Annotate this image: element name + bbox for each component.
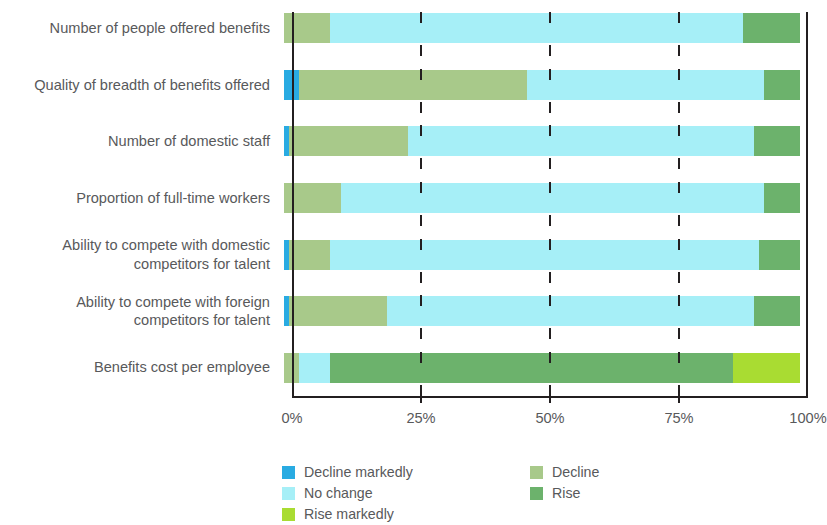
bar-segment-decline[interactable] [284, 13, 330, 43]
stacked-bar[interactable] [284, 240, 800, 270]
bar-track [284, 170, 800, 227]
category-label: Ability to compete with foreign competit… [0, 293, 284, 330]
category-label: Ability to compete with domestic competi… [0, 236, 284, 273]
bar-segment-decline[interactable] [289, 296, 387, 326]
bar-segment-no-change[interactable] [330, 13, 743, 43]
bar-segment-no-change[interactable] [408, 126, 754, 156]
bar-track [284, 226, 800, 283]
x-axis-tick-label: 100% [789, 410, 826, 426]
stacked-bar[interactable] [284, 126, 800, 156]
chart-row: Benefits cost per employee [0, 339, 826, 396]
bar-segment-rise[interactable] [330, 353, 732, 383]
chart-row: Number of domestic staff [0, 113, 826, 170]
category-label: Quality of breadth of benefits offered [0, 76, 284, 95]
bar-segment-decline[interactable] [289, 126, 408, 156]
bar-segment-no-change[interactable] [299, 353, 330, 383]
legend-label: Rise [552, 485, 580, 501]
category-label: Number of domestic staff [0, 132, 284, 151]
legend-label: No change [304, 485, 373, 501]
bar-segment-no-change[interactable] [330, 240, 758, 270]
x-axis-tick-label: 50% [535, 410, 564, 426]
bar-segment-no-change[interactable] [527, 70, 764, 100]
bar-segment-decline[interactable] [289, 240, 330, 270]
legend-swatch-rise [530, 487, 543, 500]
x-axis-line [292, 396, 808, 398]
stacked-bar[interactable] [284, 353, 800, 383]
legend-swatch-decline [530, 466, 543, 479]
legend-swatch-decline-markedly [282, 466, 295, 479]
x-axis-tick-label: 0% [281, 410, 302, 426]
bar-track [284, 339, 800, 396]
stacked-bar[interactable] [284, 13, 800, 43]
bar-segment-rise[interactable] [754, 296, 800, 326]
chart-row: Quality of breadth of benefits offered [0, 57, 826, 114]
bar-track [284, 113, 800, 170]
axis-right-edge [806, 12, 808, 396]
bar-segment-rise[interactable] [759, 240, 800, 270]
axis-left-edge [292, 12, 294, 396]
chart-row: Proportion of full-time workers [0, 170, 826, 227]
bar-rows: Number of people offered benefits Qualit… [0, 0, 826, 396]
chart-row: Ability to compete with foreign competit… [0, 283, 826, 340]
legend-item[interactable]: Decline [530, 462, 599, 482]
legend-item[interactable]: Rise [530, 483, 599, 503]
bar-segment-rise[interactable] [764, 70, 800, 100]
legend-item[interactable]: No change [282, 483, 413, 503]
x-axis-tick-label: 25% [406, 410, 435, 426]
chart-row: Number of people offered benefits [0, 0, 826, 57]
legend-item[interactable]: Rise markedly [282, 504, 413, 524]
bar-segment-no-change[interactable] [341, 183, 764, 213]
bar-track [284, 57, 800, 114]
legend-column-left: Decline markedly No change Rise markedly [282, 462, 413, 525]
legend-column-right: Decline Rise [530, 462, 599, 504]
category-label: Benefits cost per employee [0, 358, 284, 377]
bar-segment-rise[interactable] [743, 13, 800, 43]
bar-segment-no-change[interactable] [387, 296, 753, 326]
chart-row: Ability to compete with domestic competi… [0, 226, 826, 283]
bar-segment-rise[interactable] [754, 126, 800, 156]
stacked-bar[interactable] [284, 296, 800, 326]
legend-swatch-rise-markedly [282, 508, 295, 521]
legend-label: Decline [552, 464, 599, 480]
legend-label: Rise markedly [304, 506, 394, 522]
legend-label: Decline markedly [304, 464, 413, 480]
x-axis-tick-labels: 0%25%50%75%100% [0, 410, 826, 434]
stacked-bar[interactable] [284, 183, 800, 213]
plot-area: Number of people offered benefits Qualit… [0, 0, 826, 400]
bar-track [284, 0, 800, 57]
legend-item[interactable]: Decline markedly [282, 462, 413, 482]
bar-segment-rise-markedly[interactable] [733, 353, 800, 383]
chart-legend: Decline markedly No change Rise markedly… [282, 462, 822, 522]
bar-segment-decline[interactable] [299, 70, 526, 100]
x-axis-tick-label: 75% [664, 410, 693, 426]
category-label: Number of people offered benefits [0, 19, 284, 38]
bar-track [284, 283, 800, 340]
stacked-bar[interactable] [284, 70, 800, 100]
legend-swatch-no-change [282, 487, 295, 500]
bar-segment-rise[interactable] [764, 183, 800, 213]
category-label: Proportion of full-time workers [0, 189, 284, 208]
